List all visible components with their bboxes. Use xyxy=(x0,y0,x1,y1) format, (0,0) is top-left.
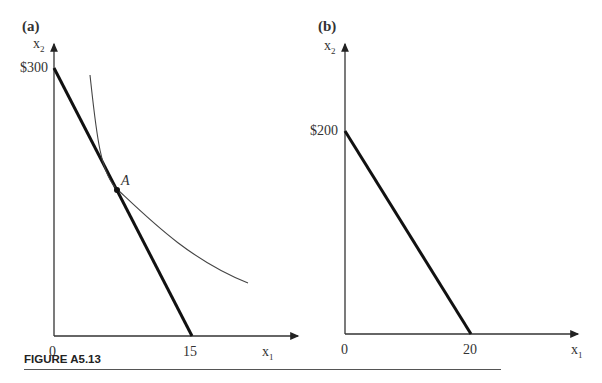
point-a-marker xyxy=(114,187,120,193)
panel-a-axes xyxy=(54,44,298,336)
point-a-label: A xyxy=(121,173,130,189)
panel-a-indifference-curve xyxy=(90,75,248,283)
figure-canvas xyxy=(0,0,602,383)
panel-b-x-intercept-label: 20 xyxy=(463,342,477,358)
panel-a-label: (a) xyxy=(22,18,40,35)
panel-b-y-axis-label: x2 xyxy=(324,38,336,56)
panel-a-budget-line xyxy=(54,68,192,336)
panel-b-x-axis-label: x1 xyxy=(571,342,583,360)
panel-a-x-axis-label: x1 xyxy=(262,344,274,362)
panel-b-label: (b) xyxy=(318,18,336,35)
panel-b-y-intercept-label: $200 xyxy=(310,123,338,139)
figure-caption: FIGURE A5.13 xyxy=(24,353,101,365)
panel-a-y-axis-label: x2 xyxy=(33,36,45,54)
panel-a-y-intercept-label: $300 xyxy=(20,60,48,76)
panel-b-budget-line xyxy=(345,131,471,334)
panel-b-origin-label: 0 xyxy=(341,342,348,358)
caption-rule xyxy=(24,369,501,370)
panel-a-x-intercept-label: 15 xyxy=(183,344,197,360)
